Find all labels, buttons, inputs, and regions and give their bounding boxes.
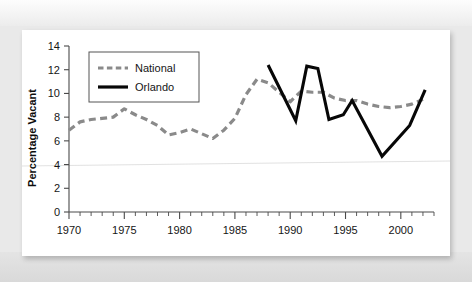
x-tick-label: 1995 <box>333 224 357 236</box>
legend-label-national: National <box>135 62 175 74</box>
y-axis-title: Percentage Vacant <box>26 89 38 187</box>
x-tick-label: 1975 <box>112 224 136 236</box>
y-tick-label: 12 <box>48 64 60 76</box>
x-tick-label: 1985 <box>223 224 247 236</box>
x-tick-label: 1980 <box>167 224 191 236</box>
scan-artifact-line <box>22 161 450 166</box>
chart-plate: 02468101214 1970197519801985199019952000… <box>22 30 450 256</box>
y-tick-label: 14 <box>48 40 60 52</box>
legend-box <box>89 52 199 102</box>
x-tick-label: 1970 <box>57 224 81 236</box>
x-tick-label: 2000 <box>389 224 413 236</box>
series-line-orlando <box>268 65 425 156</box>
x-tick-group <box>69 212 434 219</box>
y-tick-label: 4 <box>54 159 60 171</box>
x-tick-label-group: 1970197519801985199019952000 <box>57 224 413 236</box>
figure-frame: 02468101214 1970197519801985199019952000… <box>0 0 472 282</box>
y-tick-label: 2 <box>54 182 60 194</box>
y-tick-label: 10 <box>48 87 60 99</box>
y-tick-label: 6 <box>54 135 60 147</box>
y-tick-label-group: 02468101214 <box>48 40 60 218</box>
y-tick-label: 8 <box>54 111 60 123</box>
x-tick-label: 1990 <box>278 224 302 236</box>
legend: National Orlando <box>89 52 199 102</box>
legend-label-orlando: Orlando <box>135 81 174 93</box>
y-tick-label: 0 <box>54 206 60 218</box>
line-chart: 02468101214 1970197519801985199019952000… <box>22 30 450 256</box>
